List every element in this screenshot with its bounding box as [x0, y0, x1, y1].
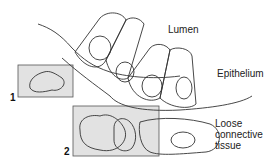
nucleus-4	[176, 77, 192, 99]
label-connective-2: connective	[215, 129, 263, 140]
nucleus-3	[142, 75, 162, 97]
cell-2	[106, 18, 144, 79]
label-lumen: Lumen	[168, 24, 199, 35]
label-epithelium: Epithelium	[217, 68, 264, 79]
label-connective-1: Loose	[215, 118, 242, 129]
label-connective-3: tissue	[215, 140, 241, 151]
fibroblast-nucleus	[171, 132, 195, 148]
cell-1	[75, 13, 126, 67]
box-1-number: 1	[10, 92, 16, 103]
box-2-number: 2	[64, 146, 70, 157]
inset-box-1	[18, 65, 73, 97]
